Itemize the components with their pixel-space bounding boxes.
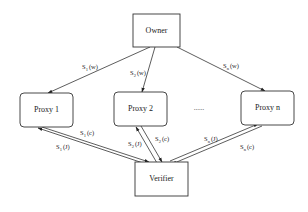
node-owner: Owner [133, 14, 180, 47]
edge-verifier-to-proxyn [170, 124, 258, 161]
proxyn-label: Proxy n [255, 103, 280, 112]
label-s2-c: S2(c) [155, 135, 169, 144]
label-s1-w: S1(w) [82, 63, 98, 72]
label-sn-w: Sn(w) [223, 62, 239, 71]
node-proxy2: Proxy 2 [114, 92, 167, 126]
node-verifier: Verifier [135, 162, 188, 196]
label-s1-j: S1(J) [56, 143, 70, 152]
verifier-label: Verifier [149, 174, 174, 183]
edge-owner-to-proxy1 [48, 47, 150, 93]
proxy-verification-diagram: Owner Proxy 1 Proxy 2 ...... Proxy n Ver… [0, 0, 308, 212]
edge-owner-to-proxyn [177, 47, 265, 91]
proxy1-label: Proxy 1 [34, 105, 59, 114]
label-sn-c: Sn(c) [240, 143, 254, 152]
node-proxy1: Proxy 1 [20, 93, 73, 127]
label-s2-j: S2(J) [128, 140, 142, 149]
label-s2-w: S2(w) [130, 69, 146, 78]
proxy2-label: Proxy 2 [128, 104, 153, 113]
node-proxyn: Proxy n [241, 91, 294, 125]
label-s1-c: S1(c) [80, 129, 94, 138]
edge-proxy2-to-verifier [141, 126, 162, 162]
owner-label: Owner [146, 26, 168, 35]
ellipsis: ...... [194, 104, 205, 112]
